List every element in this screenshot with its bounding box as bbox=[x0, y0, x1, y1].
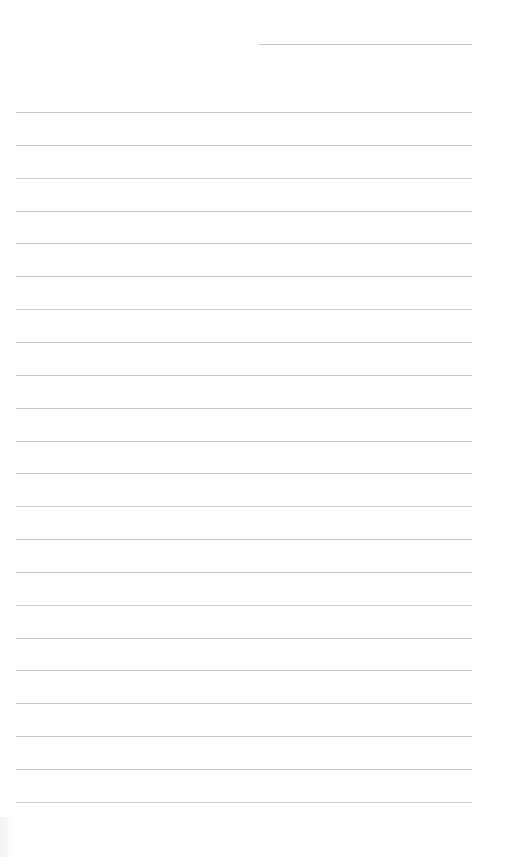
ruled-line bbox=[16, 506, 472, 507]
ruled-line bbox=[16, 112, 472, 113]
ruled-line bbox=[16, 736, 472, 737]
ruled-line bbox=[16, 342, 472, 343]
notepaper-page bbox=[0, 0, 508, 857]
ruled-line bbox=[16, 703, 472, 704]
ruled-line bbox=[16, 309, 472, 310]
ruled-line bbox=[16, 802, 472, 803]
ruled-line bbox=[16, 670, 472, 671]
ruled-line bbox=[16, 441, 472, 442]
ruled-line bbox=[16, 211, 472, 212]
ruled-line bbox=[16, 408, 472, 409]
ruled-line bbox=[16, 605, 472, 606]
ruled-line bbox=[16, 145, 472, 146]
page-corner-shadow bbox=[0, 817, 14, 857]
ruled-line bbox=[16, 276, 472, 277]
ruled-line bbox=[16, 539, 472, 540]
ruled-line bbox=[16, 572, 472, 573]
header-date-line bbox=[259, 44, 472, 45]
ruled-line bbox=[16, 375, 472, 376]
ruled-line bbox=[16, 243, 472, 244]
ruled-line bbox=[16, 473, 472, 474]
ruled-line bbox=[16, 178, 472, 179]
ruled-line bbox=[16, 769, 472, 770]
ruled-line bbox=[16, 638, 472, 639]
